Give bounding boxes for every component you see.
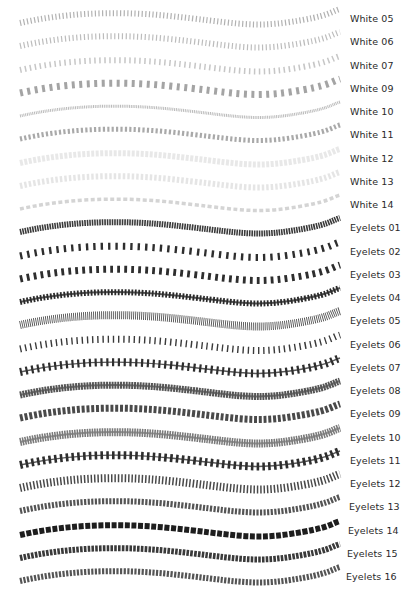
swatch-label: Eyelets 15 [347, 548, 398, 559]
swatch-label: Eyelets 07 [350, 362, 401, 373]
swatch-label: Eyelets 11 [350, 455, 401, 466]
swatch-label: Eyelets 01 [350, 222, 401, 233]
stitch-path [20, 242, 340, 257]
swatch-label: Eyelets 08 [350, 385, 401, 396]
swatch-label: Eyelets 09 [350, 408, 401, 419]
swatch-label: White 09 [350, 83, 394, 94]
swatch-label: Eyelets 05 [350, 315, 401, 326]
swatch-label: Eyelets 16 [346, 571, 397, 582]
swatch-label: White 06 [350, 36, 394, 47]
stitch-path [20, 195, 340, 210]
swatch-label: White 07 [350, 60, 394, 71]
stitch-path [20, 335, 340, 350]
swatch-label: White 11 [350, 129, 394, 140]
stitch-path [20, 102, 340, 117]
stitch-path [20, 265, 340, 280]
stitch-path [20, 9, 340, 24]
swatch-label: Eyelets 06 [350, 339, 401, 350]
stitch-path [20, 544, 340, 559]
stitch-path [20, 311, 340, 326]
stitch-path [20, 497, 340, 512]
stitch-path [20, 521, 340, 536]
stitch-path [20, 56, 340, 71]
swatch-label: Eyelets 10 [350, 432, 401, 443]
stitch-path [20, 172, 340, 187]
stitch-path [20, 404, 340, 419]
swatch-label: White 12 [350, 153, 394, 164]
stitch-path [20, 79, 340, 94]
stitch-path [20, 218, 340, 233]
swatch-label: Eyelets 12 [350, 478, 401, 489]
stitch-path [20, 567, 340, 582]
stitch-path [20, 474, 340, 489]
swatch-label: Eyelets 02 [350, 246, 401, 257]
stitch-path [20, 32, 340, 47]
swatch-label: White 13 [350, 176, 394, 187]
swatch-label: White 05 [350, 13, 394, 24]
swatch-label: Eyelets 04 [350, 292, 401, 303]
swatch-label: White 10 [350, 106, 394, 117]
swatch-label: Eyelets 03 [350, 269, 401, 280]
stitch-path [20, 125, 340, 140]
stitch-path [20, 149, 340, 164]
swatch-label: White 14 [350, 199, 394, 210]
swatch-label: Eyelets 14 [348, 525, 399, 536]
swatch-row: Eyelets 16 [0, 572, 418, 595]
stitch-stroke-icon [0, 560, 350, 594]
swatch-canvas: White 05White 06White 07White 09White 10… [0, 0, 418, 613]
swatch-label: Eyelets 13 [349, 501, 400, 512]
